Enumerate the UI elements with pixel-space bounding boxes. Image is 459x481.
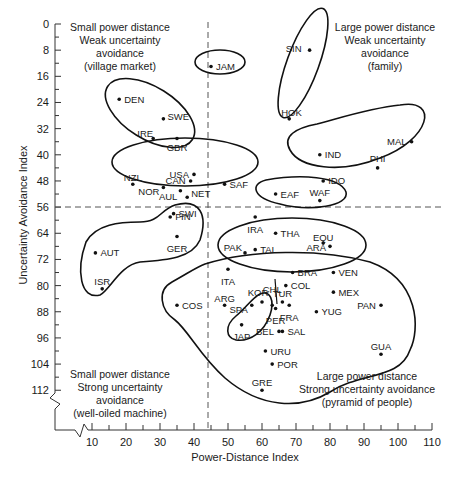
data-point-mex: MEX	[332, 287, 360, 298]
svg-text:SPA: SPA	[229, 304, 248, 315]
x-tick-label: 20	[120, 436, 132, 448]
svg-text:MAL: MAL	[387, 136, 407, 147]
svg-text:avoidance: avoidance	[96, 47, 144, 59]
svg-text:SWE: SWE	[167, 111, 189, 122]
svg-text:Large power distance: Large power distance	[335, 21, 436, 33]
x-axis	[55, 424, 432, 437]
data-point-uru: URU	[264, 346, 292, 357]
data-point-ira: IRA	[247, 215, 264, 235]
svg-text:MEX: MEX	[338, 287, 359, 298]
x-ticks: 102030405060708090100110	[86, 423, 441, 448]
svg-text:AUL: AUL	[159, 191, 177, 202]
x-tick-label: 30	[154, 436, 166, 448]
data-point-eaf: EAF	[274, 189, 299, 200]
data-point-swe: SWE	[162, 111, 189, 122]
svg-text:ISR: ISR	[94, 276, 110, 287]
svg-text:GRE: GRE	[252, 377, 273, 388]
svg-text:Weak uncertainty: Weak uncertainty	[345, 34, 427, 46]
data-point-ind: IND	[318, 149, 341, 160]
svg-text:SAL: SAL	[287, 326, 305, 337]
data-point-phi: PHI	[370, 153, 386, 169]
y-tick-label: 80	[37, 280, 49, 292]
svg-text:PHI: PHI	[370, 153, 386, 164]
data-point-net: NET	[185, 188, 210, 199]
data-point-saf: SAF	[223, 179, 248, 190]
svg-text:PAK: PAK	[224, 242, 243, 253]
svg-text:NZL: NZL	[124, 172, 142, 183]
svg-text:GER: GER	[167, 243, 188, 254]
data-point-spa: SPA	[229, 303, 253, 314]
data-point-fin: FIN	[168, 211, 190, 222]
x-tick-label: 100	[389, 436, 407, 448]
y-tick-label: 112	[31, 384, 49, 396]
svg-text:EAF: EAF	[281, 189, 300, 200]
data-point-ara: ARA	[306, 242, 331, 253]
y-tick-label: 24	[37, 96, 49, 108]
x-tick-label: 80	[324, 436, 336, 448]
y-tick-label: 104	[31, 358, 49, 370]
svg-text:PER: PER	[266, 315, 286, 326]
svg-text:Strong uncertainty avoidance: Strong uncertainty avoidance	[299, 383, 435, 395]
svg-text:JAP: JAP	[233, 331, 250, 342]
svg-text:Large power distance: Large power distance	[317, 370, 418, 382]
svg-text:BEL: BEL	[256, 326, 274, 337]
data-point-ire: IRE	[137, 128, 155, 140]
quadrant-label-bottom-left: Small power distance Strong uncertainty …	[70, 368, 170, 419]
svg-text:avoidance: avoidance	[96, 394, 144, 406]
data-point-ger: GER	[167, 235, 188, 254]
svg-text:WAF: WAF	[309, 187, 330, 198]
data-points: JAMSINHOKDENSWEIREGBRMALINDPHIIDOUSACANN…	[94, 43, 414, 392]
data-point-pan: PAN	[357, 300, 383, 311]
svg-text:Strong uncertainty: Strong uncertainty	[77, 381, 163, 393]
data-point-yug: YUG	[315, 306, 342, 317]
svg-text:COL: COL	[291, 280, 311, 291]
x-tick-label: 50	[222, 436, 234, 448]
svg-text:IRE: IRE	[137, 128, 153, 139]
x-axis-title: Power-Distance Index	[191, 451, 299, 463]
data-point-por: POR	[270, 359, 298, 370]
y-tick-label: 40	[37, 149, 49, 161]
svg-text:THA: THA	[281, 228, 301, 239]
x-tick-label: 60	[256, 436, 268, 448]
data-point-nzl: NZL	[124, 172, 142, 186]
x-tick-label: 90	[358, 436, 370, 448]
y-tick-label: 56	[37, 201, 49, 213]
svg-text:BRA: BRA	[298, 267, 318, 278]
data-point-waf: WAF	[309, 187, 330, 202]
svg-text:ARG: ARG	[214, 293, 235, 304]
data-point-cos: COS	[175, 300, 202, 311]
svg-text:KOR: KOR	[248, 287, 269, 298]
svg-text:JAM: JAM	[216, 61, 235, 72]
data-point-den: DEN	[117, 94, 144, 105]
svg-text:IND: IND	[325, 149, 342, 160]
svg-text:VEN: VEN	[338, 267, 358, 278]
svg-text:(pyramid of people): (pyramid of people)	[322, 396, 412, 408]
data-point-bel: BEL	[256, 326, 281, 337]
svg-text:Small power distance: Small power distance	[70, 368, 170, 380]
data-point-pak: PAK	[224, 242, 247, 254]
svg-text:NOR: NOR	[138, 186, 159, 197]
data-point-ven: VEN	[332, 267, 358, 278]
svg-text:PAN: PAN	[357, 300, 376, 311]
data-point-per: PER	[266, 307, 286, 326]
y-tick-label: 0	[43, 18, 49, 30]
y-axis	[50, 24, 60, 430]
svg-text:DEN: DEN	[124, 94, 144, 105]
svg-text:ARA: ARA	[306, 242, 326, 253]
data-point-tha: THA	[274, 228, 300, 239]
quadrant-label-top-left: Small power distance Weak uncertainty av…	[70, 21, 170, 72]
data-point-gua: GUA	[371, 341, 392, 356]
svg-text:Small power distance: Small power distance	[70, 21, 170, 33]
svg-text:IRA: IRA	[247, 224, 264, 235]
svg-text:URU: URU	[270, 346, 291, 357]
svg-text:avoidance: avoidance	[361, 47, 409, 59]
y-tick-label: 32	[37, 123, 49, 135]
data-point-aul: AUL	[159, 189, 182, 202]
x-tick-label: 70	[290, 436, 302, 448]
x-tick-label: 40	[188, 436, 200, 448]
y-tick-label: 48	[37, 175, 49, 187]
cluster-den-gbr	[94, 64, 206, 161]
svg-text:AUT: AUT	[100, 247, 119, 258]
y-tick-label: 96	[37, 332, 49, 344]
y-axis-title: Uncertainty Avoidance Index	[17, 145, 29, 285]
